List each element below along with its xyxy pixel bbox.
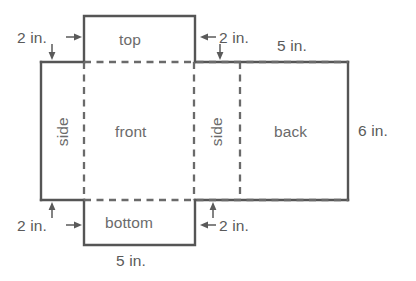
net-diagram-canvas: top side front side back bottom 2 in. 2 … [0, 0, 416, 281]
arrow-up-bottom-right-icon [210, 202, 217, 218]
panel-label-side-left: side [55, 113, 71, 151]
dimension-label-top-right-2in: 2 in. [219, 30, 249, 46]
panel-label-bottom: bottom [105, 215, 153, 231]
panel-label-back: back [274, 124, 307, 140]
arrow-up-bottom-left-icon [49, 202, 56, 218]
dimension-label-bottom-right-2in: 2 in. [219, 218, 249, 234]
arrow-down-top-left-icon [49, 44, 56, 60]
arrow-left-top-right-icon [200, 33, 216, 40]
dimension-label-top-5in: 5 in. [277, 38, 307, 54]
dimension-label-right-6in: 6 in. [358, 123, 388, 139]
dimension-label-top-left-2in: 2 in. [17, 30, 47, 46]
panel-label-front: front [115, 124, 147, 140]
arrow-down-top-right-icon [217, 44, 224, 60]
panel-label-top: top [119, 32, 141, 48]
panel-label-side-right: side [209, 113, 225, 151]
arrow-right-bottom-left-icon [66, 221, 82, 228]
arrow-left-bottom-right-icon [200, 221, 216, 228]
dimension-label-bottom-5in: 5 in. [116, 253, 146, 269]
arrow-right-top-left-icon [66, 33, 82, 40]
dimension-label-bottom-left-2in: 2 in. [17, 218, 47, 234]
